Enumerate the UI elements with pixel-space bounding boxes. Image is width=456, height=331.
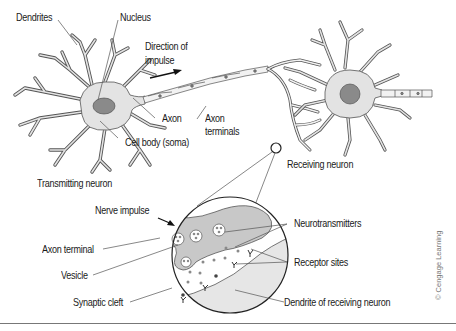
label-synaptic-cleft: Synaptic cleft	[73, 296, 123, 308]
label-vesicle: Vesicle	[61, 269, 88, 281]
receiving-axon	[381, 90, 432, 97]
label-direction-line1: Direction of	[145, 40, 188, 52]
label-cell-body: Cell body (soma)	[125, 136, 189, 148]
label-nucleus: Nucleus	[120, 11, 151, 23]
magnify-line-right	[255, 153, 275, 205]
neuron-diagram: Dendrites Nucleus Direction of impulse A…	[0, 0, 456, 331]
label-neurotransmitters: Neurotransmitters	[294, 217, 361, 229]
label-dendrites: Dendrites	[16, 11, 52, 23]
label-axon-terminals-2: terminals	[205, 125, 239, 137]
receiving-nucleus-body	[340, 84, 360, 104]
label-nerve-impulse: Nerve impulse	[95, 204, 149, 216]
label-receiving-neuron: Receiving neuron	[287, 158, 353, 170]
axon	[143, 66, 268, 103]
bottom-rule	[0, 323, 456, 324]
credit-text: © Cengage Learning	[434, 231, 443, 300]
label-receptor-sites: Receptor sites	[294, 256, 348, 268]
label-axon: Axon	[162, 112, 182, 124]
synapse-highlight-circle	[271, 143, 281, 153]
diagram-canvas	[0, 0, 456, 331]
label-dendrite-receiving: Dendrite of receiving neuron	[284, 296, 390, 308]
label-direction-line2: impulse	[145, 54, 174, 66]
label-transmitting-neuron: Transmitting neuron	[37, 177, 112, 189]
transmitting-nucleus	[93, 98, 115, 114]
label-axon-terminals-1: Axon	[205, 112, 225, 124]
label-axon-terminal: Axon terminal	[42, 243, 94, 255]
synapse-inset	[158, 197, 300, 320]
